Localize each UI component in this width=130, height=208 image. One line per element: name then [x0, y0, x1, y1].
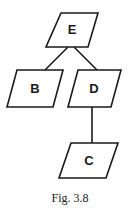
edge-e-b — [45, 47, 68, 70]
node-b-label: B — [30, 81, 39, 96]
figure-caption: Fig. 3.8 — [0, 191, 130, 206]
node-e-label: E — [68, 22, 77, 37]
edge-e-d — [74, 47, 97, 70]
tree-diagram: E B D C — [0, 0, 130, 208]
node-c-label: C — [84, 153, 94, 168]
node-d-label: D — [89, 81, 98, 96]
